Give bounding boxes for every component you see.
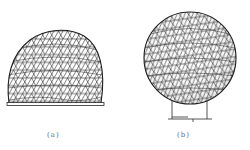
dome-a (0, 0, 120, 110)
figure-canvas: (a) (b) (0, 0, 250, 150)
caption-b: (b) (177, 131, 190, 139)
sphere-b (140, 8, 240, 122)
caption-a: (a) (47, 131, 60, 139)
geodesic-figure (0, 0, 250, 150)
